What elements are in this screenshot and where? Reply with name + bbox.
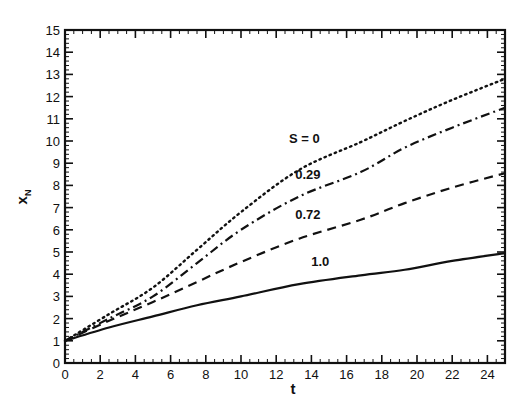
y-tick-labels: 0123456789101112131415 xyxy=(46,23,60,371)
x-axis-title: t xyxy=(291,380,296,397)
x-tick-label: 4 xyxy=(132,367,139,382)
axis-ticks xyxy=(65,30,505,363)
y-tick-label: 0 xyxy=(53,356,60,371)
curve-labels: S = 00.290.721.0 xyxy=(289,131,329,269)
y-tick-label: 13 xyxy=(46,67,60,82)
curve-dashdot xyxy=(65,108,505,341)
x-tick-label: 2 xyxy=(97,367,104,382)
x-tick-label: 6 xyxy=(167,367,174,382)
curve-label: S = 0 xyxy=(289,131,320,146)
curve-label: 0.29 xyxy=(295,167,320,182)
curve-label: 1.0 xyxy=(311,254,329,269)
x-tick-label: 22 xyxy=(445,367,459,382)
y-tick-label: 4 xyxy=(53,267,60,282)
x-tick-label: 16 xyxy=(339,367,353,382)
x-tick-label: 8 xyxy=(202,367,209,382)
y-tick-label: 5 xyxy=(53,245,60,260)
y-tick-label: 6 xyxy=(53,223,60,238)
curve-dashed xyxy=(65,173,505,341)
curves xyxy=(65,79,505,341)
y-tick-label: 7 xyxy=(53,201,60,216)
y-tick-label: 8 xyxy=(53,178,60,193)
y-tick-label: 3 xyxy=(53,289,60,304)
y-axis-title: xN xyxy=(13,190,33,205)
y-tick-label: 12 xyxy=(46,90,60,105)
y-tick-label: 2 xyxy=(53,312,60,327)
curve-dotted xyxy=(65,79,505,341)
curve-label: 0.72 xyxy=(295,207,320,222)
curve-solid xyxy=(65,253,505,341)
x-tick-label: 18 xyxy=(375,367,389,382)
line-chart: 024681012141618202224 012345678910111213… xyxy=(0,0,532,412)
y-tick-label: 9 xyxy=(53,156,60,171)
x-tick-label: 10 xyxy=(234,367,248,382)
x-tick-labels: 024681012141618202224 xyxy=(61,367,494,382)
y-tick-label: 10 xyxy=(46,134,60,149)
plot-frame xyxy=(65,30,505,363)
x-tick-label: 0 xyxy=(61,367,68,382)
x-tick-label: 24 xyxy=(480,367,494,382)
y-tick-label: 15 xyxy=(46,23,60,38)
x-tick-label: 14 xyxy=(304,367,318,382)
y-tick-label: 14 xyxy=(46,45,60,60)
svg-text:xN: xN xyxy=(13,190,33,205)
y-tick-label: 11 xyxy=(47,112,61,127)
y-tick-label: 1 xyxy=(53,334,60,349)
x-tick-label: 12 xyxy=(269,367,283,382)
x-tick-label: 20 xyxy=(410,367,424,382)
